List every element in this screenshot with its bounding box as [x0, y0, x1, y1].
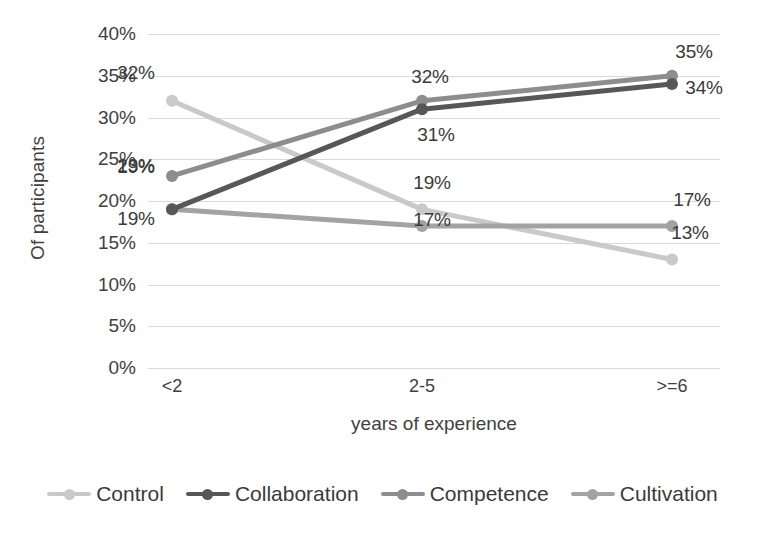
y-axis-tick-label: 30%: [98, 107, 136, 129]
legend-item-control[interactable]: Control: [47, 482, 164, 506]
data-point-marker: [166, 170, 178, 182]
y-axis-tick-label: 40%: [98, 23, 136, 45]
data-label: 19%: [117, 208, 154, 230]
legend-swatch-icon: [186, 487, 230, 501]
data-point-marker: [166, 203, 178, 215]
legend-label: Cultivation: [620, 482, 718, 506]
legend-label: Competence: [430, 482, 549, 506]
data-label: 19%: [413, 172, 450, 194]
legend-item-cultivation[interactable]: Cultivation: [571, 482, 718, 506]
data-label: 32%: [411, 66, 448, 88]
data-point-marker: [666, 78, 678, 90]
data-label: 17%: [673, 189, 710, 211]
data-label: 13%: [671, 222, 708, 244]
legend-item-competence[interactable]: Competence: [381, 482, 549, 506]
x-axis-tick-label: 2-5: [409, 376, 435, 397]
data-label: 17%: [413, 209, 450, 231]
plot-area: 0%5%10%15%20%25%30%35%40% 32%19%13%19%31…: [148, 34, 720, 368]
x-axis-tick-label: >=6: [656, 376, 687, 397]
data-label: 35%: [675, 41, 712, 63]
legend-label: Control: [96, 482, 164, 506]
legend-item-collaboration[interactable]: Collaboration: [186, 482, 359, 506]
data-point-marker: [166, 95, 178, 107]
legend-swatch-icon: [381, 487, 425, 501]
gridline: [148, 368, 720, 369]
y-axis-tick-label: 5%: [109, 315, 136, 337]
y-axis-tick-label: 10%: [98, 274, 136, 296]
data-label: 19%: [117, 156, 154, 178]
legend-label: Collaboration: [235, 482, 359, 506]
x-axis-tick-label: <2: [162, 376, 183, 397]
legend-swatch-icon: [571, 487, 615, 501]
y-axis-title: Of participants: [27, 68, 49, 328]
y-axis-tick-label: 0%: [109, 357, 136, 379]
chart-legend: ControlCollaborationCompetenceCultivatio…: [0, 482, 765, 506]
data-point-marker: [416, 103, 428, 115]
data-label: 32%: [117, 62, 154, 84]
data-label: 34%: [685, 77, 722, 99]
line-chart: Of participants 0%5%10%15%20%25%30%35%40…: [0, 0, 765, 538]
data-point-marker: [666, 253, 678, 265]
data-label: 31%: [417, 124, 454, 146]
legend-swatch-icon: [47, 487, 91, 501]
x-axis-title: years of experience: [148, 413, 720, 435]
y-axis-tick-label: 15%: [98, 232, 136, 254]
